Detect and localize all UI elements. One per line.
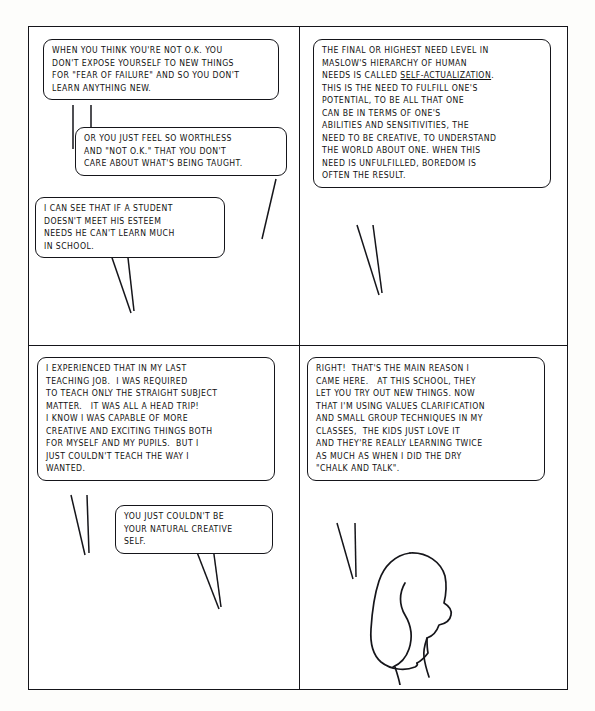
balloon-text: THE FINAL OR HIGHEST NEED LEVEL IN MASLO… [322,44,543,182]
speech-balloon-p1-b3: I CAN SEE THAT IF A STUDENT DOESN'T MEET… [35,197,225,258]
speech-balloon-p3-b1: I EXPERIENCED THAT IN MY LAST TEACHING J… [37,357,275,481]
balloon-text: OR YOU JUST FEEL SO WORTHLESS AND "NOT O… [84,132,279,170]
comic-panel-grid: WHEN YOU THINK YOU'RE NOT O.K. YOU DON'T… [28,26,568,690]
balloon-text: WHEN YOU THINK YOU'RE NOT O.K. YOU DON'T… [52,44,271,94]
balloon-tail-p1-b3 [101,249,161,359]
comic-panel-bottom-right: RIGHT! THAT'S THE MAIN REASON I CAME HER… [299,345,569,691]
balloon-tail-p3-b1 [67,495,117,595]
comic-panel-top-left: WHEN YOU THINK YOU'RE NOT O.K. YOU DON'T… [29,27,299,345]
comic-panel-bottom-left: I EXPERIENCED THAT IN MY LAST TEACHING J… [29,345,299,691]
speech-balloon-p1-b2: OR YOU JUST FEEL SO WORTHLESS AND "NOT O… [75,127,287,176]
comic-page: WHEN YOU THINK YOU'RE NOT O.K. YOU DON'T… [0,0,595,711]
balloon-text: RIGHT! THAT'S THE MAIN REASON I CAME HER… [316,362,537,475]
speech-balloon-p2-b1: THE FINAL OR HIGHEST NEED LEVEL IN MASLO… [313,39,551,188]
woman-profile-silhouette [347,545,477,685]
speech-balloon-p1-b1: WHEN YOU THINK YOU'RE NOT O.K. YOU DON'T… [43,39,279,100]
balloon-text-part-2: . THIS IS THE NEED TO FULFILL ONE'S POTE… [322,70,496,180]
balloon-tail-p2-b1 [351,225,411,335]
balloon-tail-p3-b2 [189,547,249,657]
balloon-tail-p1-b2 [252,179,292,269]
underlined-term: SELF-ACTUALIZATION [400,70,491,80]
balloon-text: I EXPERIENCED THAT IN MY LAST TEACHING J… [46,362,267,475]
balloon-text: I CAN SEE THAT IF A STUDENT DOESN'T MEET… [44,202,217,252]
comic-panel-top-right: THE FINAL OR HIGHEST NEED LEVEL IN MASLO… [299,27,569,345]
speech-balloon-p4-b1: RIGHT! THAT'S THE MAIN REASON I CAME HER… [307,357,545,481]
speech-balloon-p3-b2: YOU JUST COULDN'T BE YOUR NATURAL CREATI… [115,505,273,554]
balloon-text: YOU JUST COULDN'T BE YOUR NATURAL CREATI… [124,510,265,548]
